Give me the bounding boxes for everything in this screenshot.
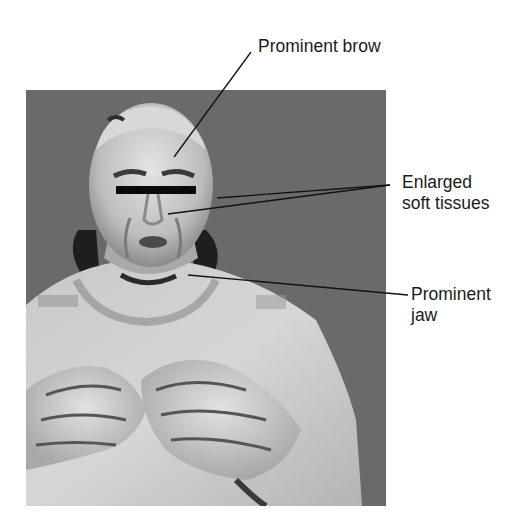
label-line: jaw <box>411 305 491 326</box>
label-line: soft tissues <box>402 193 490 214</box>
photo-illustration <box>26 90 386 506</box>
label-line: Enlarged <box>402 172 490 193</box>
figure: Prominent brow Enlarged soft tissues Pro… <box>0 0 529 524</box>
label-prominent-brow: Prominent brow <box>258 36 381 57</box>
label-enlarged-soft-tissues: Enlarged soft tissues <box>402 172 490 214</box>
patient-photo <box>26 90 386 506</box>
label-line: Prominent <box>411 284 491 305</box>
label-prominent-jaw: Prominent jaw <box>411 284 491 326</box>
label-line: Prominent brow <box>258 36 381 57</box>
